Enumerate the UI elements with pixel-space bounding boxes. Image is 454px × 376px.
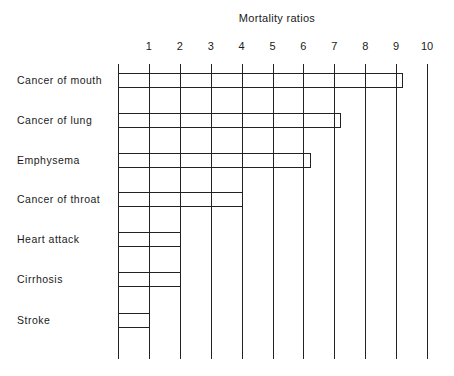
category-label: Emphysema (17, 154, 80, 166)
x-tick-label: 6 (293, 40, 313, 52)
x-tick-label: 4 (232, 40, 252, 52)
x-tick-label: 8 (355, 40, 375, 52)
category-label: Cancer of lung (17, 114, 92, 126)
category-label: Cirrhosis (17, 273, 63, 285)
gridline (211, 64, 212, 359)
gridline (427, 64, 428, 359)
bar (118, 73, 403, 88)
gridline (303, 64, 304, 359)
bar (118, 232, 181, 247)
x-tick-label: 2 (170, 40, 190, 52)
gridline (180, 64, 181, 359)
bar (118, 153, 311, 168)
category-label: Heart attack (17, 233, 80, 245)
x-tick-label: 7 (324, 40, 344, 52)
x-tick-label: 3 (201, 40, 221, 52)
bar (118, 272, 181, 287)
bar (118, 113, 341, 128)
x-tick-label: 10 (417, 40, 437, 52)
x-tick-label: 1 (139, 40, 159, 52)
gridline (334, 64, 335, 359)
x-tick-label: 9 (386, 40, 406, 52)
bar (118, 313, 150, 328)
gridline (365, 64, 366, 359)
x-tick-label: 5 (263, 40, 283, 52)
gridline (242, 64, 243, 359)
category-label: Stroke (17, 314, 50, 326)
category-label: Cancer of throat (17, 193, 100, 205)
category-label: Cancer of mouth (17, 74, 102, 86)
bar (118, 192, 243, 207)
chart-title: Mortality ratios (0, 12, 454, 24)
gridline (273, 64, 274, 359)
gridline (396, 64, 397, 359)
